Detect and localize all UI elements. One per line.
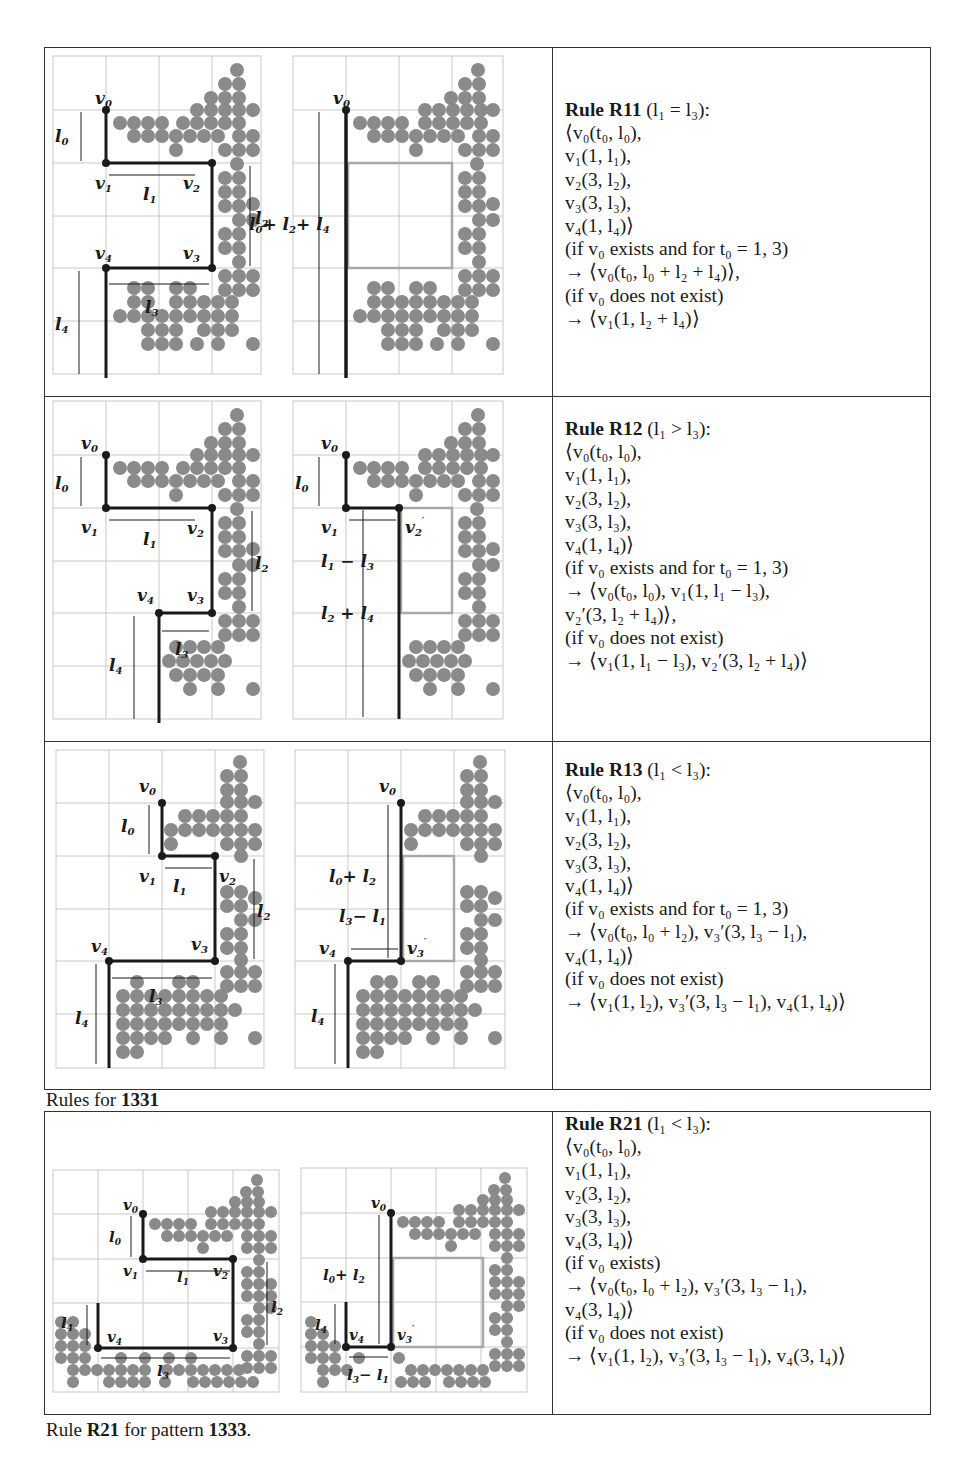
rule-line: v₃(3, l₃), (565, 510, 930, 533)
rule-line: v₁(1, l₁), (565, 463, 930, 486)
rule-line: v₁(1, l₁), (565, 1158, 930, 1181)
rules-table-1331: v0 l0 v1 l1 v2 l2 v3 v4 l3 l4 (44, 47, 931, 1090)
rule-line: v₄(3, l₄)⟩ (565, 1298, 930, 1321)
svg-text:v0: v0 (333, 88, 350, 109)
rule-condition: (l₁ = l₃): (646, 99, 710, 120)
rule-line: v₄(3, l₄)⟩ (565, 1228, 930, 1251)
rule-id: R21 (87, 1419, 120, 1440)
svg-text:l0: l0 (295, 473, 308, 494)
figure-r21: v0 l0 v1 l1 v2 l2 l4 v4 v3 l3 (45, 1112, 553, 1414)
svg-text:v3: v3 (183, 243, 200, 264)
rule-line: v₃(3, l₃), (565, 191, 930, 214)
rules-table-1333: v0 l0 v1 l1 v2 l2 l4 v4 v3 l3 (44, 1111, 931, 1415)
svg-text:v3: v3 (191, 934, 208, 955)
rule-line: → ⟨v₀(t₀, l₀), v₁(1, l₁ − l₃), (565, 579, 930, 602)
rule-line: v₂′(3, l₂ + l₄)⟩, (565, 603, 930, 626)
svg-text:v0: v0 (123, 1196, 139, 1215)
svg-text:l2 + l4: l2 + l4 (321, 603, 374, 624)
svg-text:v3′: v3′ (407, 936, 427, 959)
svg-text:v0: v0 (321, 433, 338, 454)
svg-text:l4: l4 (109, 655, 122, 676)
svg-text:v1: v1 (139, 866, 156, 887)
svg-text:v2: v2 (187, 518, 204, 539)
svg-text:v1: v1 (321, 517, 338, 538)
rule-line: v₂(3, l₂), (565, 828, 930, 851)
rule-line: (if v₀ exists and for t₀ = 1, 3) (565, 237, 930, 260)
rule-line: (if v₀ does not exist) (565, 967, 930, 990)
dot-cluster-left (113, 63, 260, 351)
rule-line: → ⟨v₁(1, l₂ + l₄)⟩ (565, 307, 930, 330)
rule-line: v₄(1, l₄)⟩ (565, 944, 930, 967)
svg-text:v4: v4 (137, 585, 154, 606)
svg-text:l0: l0 (121, 816, 134, 837)
svg-text:v0: v0 (379, 776, 396, 797)
rule-condition: (l₁ < l₃): (647, 1113, 711, 1134)
rule-row-r12: v0 l0 v1 l1 v2 l2 v4 v3 l3 l4 (45, 397, 930, 742)
figure-r12: v0 l0 v1 l1 v2 l2 v4 v3 l3 l4 (45, 397, 553, 741)
diagram-r11: v0 l0 v1 l1 v2 l2 v3 v4 l3 l4 (45, 48, 553, 395)
rule-line: → ⟨v₀(t₀, l₀ + l₂ + l₄)⟩, (565, 260, 930, 283)
rule-title: Rule R12 (565, 418, 642, 439)
svg-text:l1: l1 (143, 184, 156, 205)
svg-text:v4: v4 (349, 1326, 364, 1345)
svg-text:v3: v3 (213, 1327, 228, 1346)
rule-title: Rule R21 (565, 1113, 642, 1134)
rule-row-r13: v0 l0 v1 l1 v2 l2 v3 v4 l3 l4 (45, 742, 930, 1089)
rule-line: v₃(3, l₃), (565, 1205, 930, 1228)
rule-line: v₃(3, l₃), (565, 851, 930, 874)
svg-text:v4: v4 (319, 938, 336, 959)
svg-text:v4: v4 (95, 243, 112, 264)
rule-row-r21: v0 l0 v1 l1 v2 l2 l4 v4 v3 l3 (45, 1112, 930, 1414)
svg-text:v1: v1 (95, 173, 112, 194)
rule-line: (if v₀ exists) (565, 1251, 930, 1274)
svg-text:l0+ l2: l0+ l2 (329, 866, 376, 887)
rule-title: Rule R11 (565, 99, 641, 120)
svg-text:l0: l0 (109, 1228, 122, 1247)
rule-line: ⟨v₀(t₀, l₀), (565, 440, 930, 463)
svg-text:v0: v0 (371, 1194, 387, 1213)
svg-text:l4: l4 (315, 1316, 327, 1335)
rule-line: → ⟨v₀(t₀, l₀ + l₂), v₃′(3, l₃ − l₁), (565, 1274, 930, 1297)
svg-text:v3′: v3′ (397, 1324, 415, 1345)
rule-condition: (l₁ < l₃): (647, 759, 711, 780)
rule-line: → ⟨v₁(1, l₂), v₃′(3, l₃ − l₁), v₄(3, l₄)… (565, 1344, 930, 1367)
rule-line: v₂(3, l₂), (565, 1182, 930, 1205)
svg-text:l1: l1 (143, 529, 156, 550)
diagram-r12: v0 l0 v1 l1 v2 l2 v4 v3 l3 l4 (45, 397, 553, 740)
pattern-id: 1331 (121, 1089, 159, 1110)
svg-text:v3: v3 (187, 585, 204, 606)
rule-row-r11: v0 l0 v1 l1 v2 l2 v3 v4 l3 l4 (45, 48, 930, 397)
svg-text:v4: v4 (91, 936, 108, 957)
rule-line: v₁(1, l₁), (565, 804, 930, 827)
rule-line: v₂(3, l₂), (565, 487, 930, 510)
caption-table-1331: Rules for 1331 (46, 1089, 159, 1111)
rule-text-r12: Rule R12 (l₁ > l₃): ⟨v₀(t₀, l₀), v₁(1, l… (553, 397, 930, 741)
rule-text-r21: Rule R21 (l₁ < l₃): ⟨v₀(t₀, l₀), v₁(1, l… (553, 1112, 930, 1414)
svg-text:v1: v1 (123, 1262, 138, 1281)
svg-text:l4: l4 (55, 314, 68, 335)
svg-text:v2: v2 (213, 1262, 228, 1281)
rule-line: (if v₀ does not exist) (565, 1321, 930, 1344)
rule-text-r11: Rule R11 (l₁ = l₃): ⟨v₀(t₀, l₀), v₁(1, l… (553, 48, 930, 396)
diagram-r13: v0 l0 v1 l1 v2 l2 v3 v4 l3 l4 (45, 742, 553, 1089)
rule-line: ⟨v₀(t₀, l₀), (565, 1135, 930, 1158)
svg-text:l4: l4 (311, 1006, 324, 1027)
rule-line: → ⟨v₁(1, l₂), v₃′(3, l₃ − l₁), v₄(1, l₄)… (565, 990, 930, 1013)
svg-text:v2: v2 (183, 173, 200, 194)
svg-text:l3: l3 (149, 986, 162, 1007)
svg-text:l1: l1 (173, 876, 186, 897)
rule-title: Rule R13 (565, 759, 642, 780)
svg-text:v2: v2 (219, 866, 236, 887)
rule-line: (if v₀ exists and for t₀ = 1, 3) (565, 897, 930, 920)
svg-text:l1 − l3: l1 − l3 (321, 551, 374, 572)
svg-text:l0: l0 (55, 473, 68, 494)
svg-text:l4: l4 (75, 1008, 88, 1029)
svg-text:l0: l0 (55, 126, 68, 147)
rule-line: (if v₀ does not exist) (565, 626, 930, 649)
rule-text-r13: Rule R13 (l₁ < l₃): ⟨v₀(t₀, l₀), v₁(1, l… (553, 742, 930, 1089)
rule-line: v₄(1, l₄)⟩ (565, 874, 930, 897)
figure-r11: v0 l0 v1 l1 v2 l2 v3 v4 l3 l4 (45, 48, 553, 396)
svg-text:v0: v0 (139, 776, 156, 797)
rule-line: v₂(3, l₂), (565, 168, 930, 191)
svg-text:v4: v4 (107, 1328, 122, 1347)
